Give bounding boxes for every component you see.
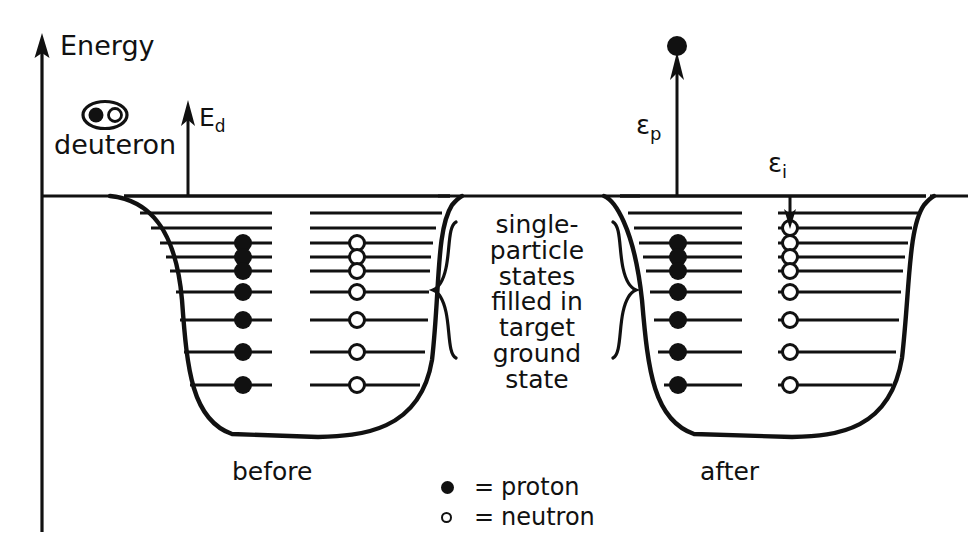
proton-marker — [669, 262, 687, 280]
eps-p-label-base: ε — [636, 110, 650, 140]
center-caption-line: target — [462, 315, 612, 341]
neutron-marker — [783, 285, 798, 300]
eps-i-label-subscript: i — [782, 161, 787, 182]
legend-item-neutron: = neutron — [441, 502, 595, 532]
ed-label-subscript: d — [215, 116, 226, 136]
neutron-marker — [783, 264, 798, 279]
eps-p-arrow — [667, 36, 687, 196]
neutron-marker — [350, 264, 365, 279]
open-circle-icon — [441, 512, 467, 523]
deuteron-label: deuteron — [54, 131, 176, 158]
center-caption-line: state — [462, 367, 612, 393]
proton-marker — [234, 376, 252, 394]
filled-circle-icon — [441, 481, 467, 494]
outgoing-proton-marker — [667, 36, 687, 56]
ed-label: Ed — [199, 105, 226, 135]
proton-marker — [669, 343, 687, 361]
deuteron-proton-marker — [89, 108, 104, 123]
eps-p-label: εp — [636, 112, 662, 143]
center-caption-line: single- — [462, 212, 612, 238]
neutron-marker — [350, 345, 365, 360]
proton-marker — [234, 311, 252, 329]
well-after-protons — [669, 234, 687, 394]
eps-i-label: εi — [768, 150, 787, 181]
proton-marker — [669, 311, 687, 329]
legend-label-proton: proton — [501, 472, 580, 503]
figure-canvas: Energy deuteron Ed εp εi before after si… — [0, 0, 977, 560]
center-caption: single- particle states filled in target… — [462, 212, 612, 392]
deuteron-symbol — [83, 102, 127, 129]
proton-marker — [669, 283, 687, 301]
neutron-marker — [783, 345, 798, 360]
well-after-neutrons — [783, 221, 798, 393]
center-caption-line: states — [462, 264, 612, 290]
proton-marker — [234, 262, 252, 280]
neutron-marker — [350, 378, 365, 393]
legend-item-proton: = proton — [441, 472, 595, 502]
deuteron-neutron-marker — [109, 109, 122, 122]
well-before-protons — [234, 234, 252, 394]
proton-marker — [234, 283, 252, 301]
well-after-label: after — [700, 459, 759, 484]
legend: = proton = neutron — [441, 472, 595, 532]
eps-i-label-base: ε — [768, 148, 782, 178]
legend-equals: = — [467, 472, 501, 503]
center-caption-line: filled in — [462, 289, 612, 315]
axis-label-energy: Energy — [60, 32, 155, 59]
legend-label-neutron: neutron — [501, 502, 595, 533]
center-caption-line: particle — [462, 238, 612, 264]
energy-axis — [35, 33, 50, 532]
proton-marker — [234, 343, 252, 361]
well-before-neutrons — [350, 236, 365, 393]
proton-marker — [669, 376, 687, 394]
neutron-marker — [783, 313, 798, 328]
eps-p-label-subscript: p — [650, 123, 661, 144]
ed-arrow — [181, 100, 195, 196]
neutron-marker — [350, 313, 365, 328]
neutron-marker — [350, 285, 365, 300]
well-after-column-gap — [742, 205, 778, 400]
legend-equals: = — [467, 502, 501, 533]
ed-label-base: E — [199, 103, 215, 132]
neutron-marker — [783, 378, 798, 393]
well-before-label: before — [232, 459, 312, 484]
well-before-column-gap — [272, 205, 310, 400]
center-caption-line: ground — [462, 341, 612, 367]
